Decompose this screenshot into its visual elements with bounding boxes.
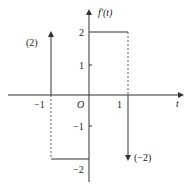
x-tick-label-neg1: −1 — [34, 99, 45, 110]
impulse-up-label: (2) — [26, 37, 38, 49]
y-tick-label-neg2: −2 — [73, 164, 84, 175]
origin-label: O — [77, 99, 84, 110]
derivative-plot: f'(t) t O −1 1 2 1 −1 −2 (2) (−2) — [0, 0, 189, 189]
x-axis-label: t — [176, 98, 179, 109]
y-tick-label-neg1: −1 — [73, 121, 84, 132]
impulse-down-label: (−2) — [134, 152, 151, 164]
y-axis-label: f'(t) — [98, 7, 113, 19]
y-tick-label-2: 2 — [79, 27, 84, 38]
x-tick-label-1: 1 — [117, 99, 122, 110]
y-tick-label-1: 1 — [79, 60, 84, 71]
